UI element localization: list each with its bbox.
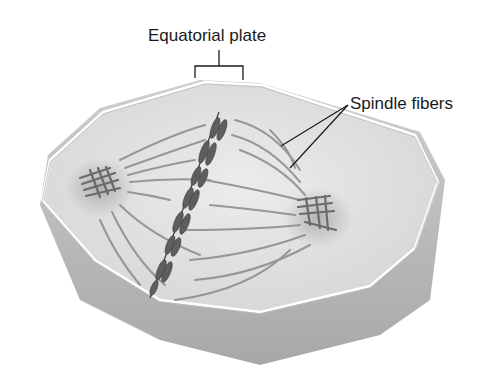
spindle-fibers-label: Spindle fibers [350, 94, 453, 114]
equatorial-plate-label: Equatorial plate [148, 26, 266, 46]
metaphase-cell-diagram [0, 0, 501, 373]
equatorial-plate-bracket [195, 50, 243, 80]
